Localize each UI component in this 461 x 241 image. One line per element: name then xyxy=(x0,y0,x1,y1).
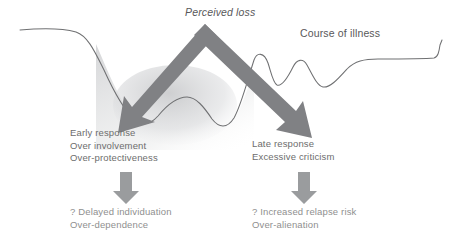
late-outcome-line-1: ? Increased relapse risk xyxy=(252,206,356,219)
early-response-heading: Early response xyxy=(70,127,158,140)
early-response-line-1: Over involvement xyxy=(70,140,158,153)
late-response-block: Late response Excessive criticism xyxy=(252,138,335,163)
early-response-block: Early response Over involvement Over-pro… xyxy=(70,127,158,165)
late-response-heading: Late response xyxy=(252,138,335,151)
course-of-illness-label: Course of illness xyxy=(300,27,380,40)
early-outcome-line-1: ? Delayed individuation xyxy=(70,206,172,219)
early-response-down-arrow xyxy=(113,172,139,204)
early-response-line-2: Over-protectiveness xyxy=(70,152,158,165)
perceived-loss-label: Perceived loss xyxy=(185,6,255,19)
late-outcome-block: ? Increased relapse risk Over-alienation xyxy=(252,206,356,231)
diagram-artwork xyxy=(0,0,461,241)
late-response-line-1: Excessive criticism xyxy=(252,151,335,164)
early-outcome-line-2: Over-dependence xyxy=(70,219,172,232)
late-response-down-arrow xyxy=(291,172,317,204)
late-outcome-line-2: Over-alienation xyxy=(252,219,356,232)
early-outcome-block: ? Delayed individuation Over-dependence xyxy=(70,206,172,231)
figure-canvas: Perceived loss Course of illness Early r… xyxy=(0,0,461,241)
